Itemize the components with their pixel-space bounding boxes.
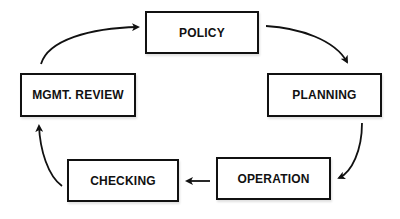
node-checking: CHECKING <box>67 159 179 202</box>
arrow-checking-to-mgmt-review <box>39 126 62 186</box>
node-policy: POLICY <box>145 11 259 54</box>
arrow-mgmt-review-to-policy <box>41 27 138 64</box>
node-planning-label: PLANNING <box>292 88 356 102</box>
node-operation: OPERATION <box>216 157 331 200</box>
arrow-policy-to-planning <box>266 26 347 62</box>
node-planning: PLANNING <box>267 73 382 117</box>
node-operation-label: OPERATION <box>237 172 309 186</box>
node-mgmt-review: MGMT. REVIEW <box>20 73 136 117</box>
node-mgmt-review-label: MGMT. REVIEW <box>32 88 124 102</box>
arrow-planning-to-operation <box>339 123 362 178</box>
node-checking-label: CHECKING <box>90 174 156 188</box>
node-policy-label: POLICY <box>179 26 225 40</box>
